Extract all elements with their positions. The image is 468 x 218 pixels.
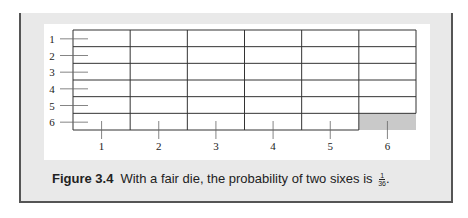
row-label: 3 xyxy=(49,66,55,78)
row-label: 2 xyxy=(49,50,55,62)
dice-outcome-grid: 123456 123456 xyxy=(0,0,468,218)
column-label: 5 xyxy=(328,140,334,152)
row-label: 6 xyxy=(49,116,55,128)
row-label: 1 xyxy=(49,33,55,45)
column-label: 2 xyxy=(156,140,162,152)
column-label: 1 xyxy=(99,140,105,152)
column-label: 3 xyxy=(213,140,219,152)
row-label: 4 xyxy=(49,83,55,95)
column-label: 4 xyxy=(270,140,276,152)
column-label: 6 xyxy=(385,140,391,152)
row-label: 5 xyxy=(49,100,55,112)
